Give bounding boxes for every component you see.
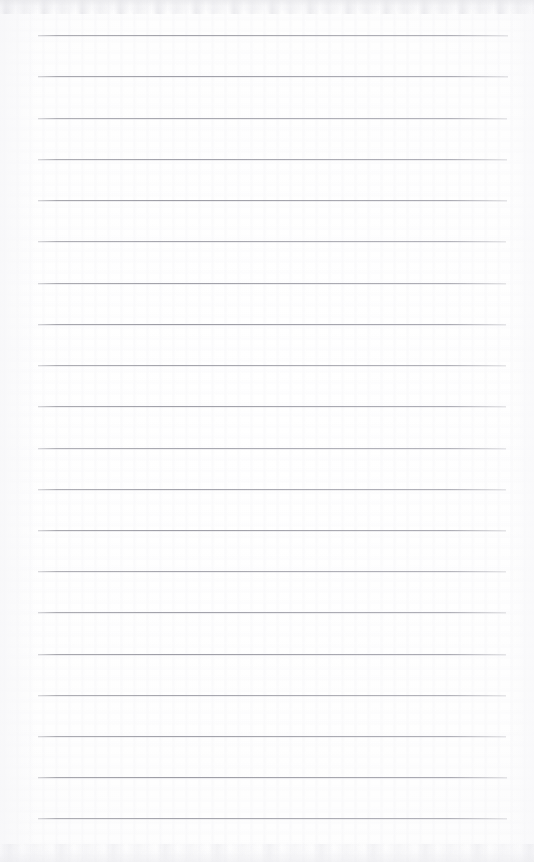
- ruled-line: [38, 365, 506, 366]
- ruled-line: [38, 571, 506, 572]
- ruled-line: [38, 406, 506, 407]
- ruled-line: [38, 777, 507, 778]
- ruled-lines-layer: [0, 0, 534, 862]
- ruled-line: [38, 283, 506, 284]
- ruled-line: [38, 654, 506, 655]
- ruled-line: [38, 736, 506, 737]
- ruled-line: [38, 200, 507, 201]
- scanned-page: Blank Ruled Notepad Page: [0, 0, 534, 862]
- ruled-line: [38, 530, 506, 531]
- ruled-line: [38, 159, 507, 160]
- ruled-line: [38, 35, 508, 36]
- ruled-line: [38, 118, 507, 119]
- ruled-line: [38, 241, 506, 242]
- ruled-line: [38, 448, 506, 449]
- ruled-line: [38, 489, 506, 490]
- ruled-line: [38, 695, 506, 696]
- ruled-line: [38, 612, 506, 613]
- ruled-line: [38, 324, 506, 325]
- ruled-line: [38, 76, 508, 77]
- ruled-line: [38, 818, 507, 819]
